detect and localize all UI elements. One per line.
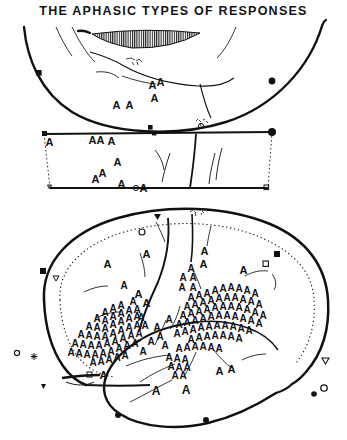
lateral-outline-right-tail xyxy=(276,384,292,393)
marker-star-lateral-left xyxy=(31,353,38,360)
marker-filled-square-band-topmid xyxy=(152,131,156,135)
sulcus-line-4 xyxy=(96,72,119,78)
basal-edge-thick xyxy=(62,375,100,378)
precentral-sulcus xyxy=(191,214,193,262)
panel-superior-view xyxy=(24,20,326,132)
band-sulcus-3 xyxy=(209,153,215,184)
marker-filled-circle-superior-right xyxy=(269,78,276,85)
marker-filled-square-superior-left xyxy=(36,70,42,76)
sulcus-line-2 xyxy=(72,27,95,62)
response-letters-band xyxy=(46,134,148,194)
marker-filled-circle-band-topright xyxy=(268,128,276,136)
top-script-annotation xyxy=(126,58,142,65)
marker-filled-square-superior-bottom xyxy=(148,125,153,130)
marker-open-square-lateral-right xyxy=(263,261,268,266)
panel-middle-band xyxy=(42,128,276,194)
band-central-fissure xyxy=(190,134,196,188)
band-left-tick xyxy=(78,31,90,33)
lateral-outline-bottom-left xyxy=(86,385,150,386)
marker-open-circle-lateral-top xyxy=(139,229,145,235)
marker-filled-circle-temporal-bottom xyxy=(203,417,209,423)
mid-script-annotation xyxy=(196,119,208,126)
marker-open-circle-lateral-right xyxy=(321,385,327,391)
band-top-edge xyxy=(44,132,272,134)
band-sulcus-1 xyxy=(155,150,164,170)
panel-lateral-view xyxy=(14,209,329,427)
marker-filled-square-lateral-right xyxy=(274,251,280,257)
marker-filled-circle-temporal-left xyxy=(115,412,121,418)
marker-filled-square-lateral-left xyxy=(40,268,46,274)
sulcus-line-3 xyxy=(217,27,236,58)
marker-open-triangle-lateral-right xyxy=(322,358,329,364)
marker-filled-triangle-lateral-bottomleft xyxy=(41,384,46,389)
sulcus-line-1 xyxy=(56,27,72,56)
marker-open-triangle-lateral-left xyxy=(53,276,59,281)
anatomical-illustration: A xyxy=(0,0,347,440)
marker-open-circle-lateral-farleft xyxy=(14,350,19,355)
marker-filled-circle-lateral-bottomright xyxy=(311,391,317,397)
band-right-edge xyxy=(268,132,272,188)
marker-filled-square-band-topleft xyxy=(42,131,47,136)
figure-plate: THE APHASIC TYPES OF RESPONSES A xyxy=(0,0,347,440)
marker-filled-triangle-lateral-top xyxy=(154,214,161,220)
band-sulcus-4 xyxy=(216,148,222,180)
superior-outline-right-tip xyxy=(322,20,326,26)
sulcus-line-6 xyxy=(200,84,211,118)
